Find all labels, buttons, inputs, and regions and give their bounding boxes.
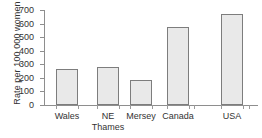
y-tick-mark: 0 <box>40 105 44 106</box>
x-axis-label: NEThames <box>92 111 125 133</box>
x-tick-mark <box>97 105 98 109</box>
y-tick-mark: 200 <box>40 78 44 79</box>
x-axis-label-line: USA <box>223 111 242 121</box>
x-axis-label: Wales <box>55 111 80 122</box>
y-tick-mark: 300 <box>40 64 44 65</box>
x-tick-mark <box>194 105 195 109</box>
x-tick-mark <box>78 105 79 109</box>
x-axis-label: USA <box>223 111 242 122</box>
x-axis-label: Canada <box>162 111 194 122</box>
x-axis-label-line: Canada <box>162 111 194 121</box>
y-tick-mark: 600 <box>40 24 44 25</box>
y-tick-mark: 400 <box>40 51 44 52</box>
y-tick-label: 400 <box>19 46 34 56</box>
x-tick-mark <box>152 105 153 109</box>
bar-chart: Rate per 100 000 women 01002003004005006… <box>0 0 262 138</box>
y-tick-mark: 700 <box>40 10 44 11</box>
bar <box>167 27 189 105</box>
y-tick-label: 600 <box>19 19 34 29</box>
y-tick-mark: 100 <box>40 91 44 92</box>
x-axis-label: Mersey <box>126 111 156 122</box>
x-axis-label-line: NE <box>102 111 115 121</box>
bar <box>56 69 78 105</box>
bar <box>221 14 243 105</box>
y-tick-mark: 500 <box>40 37 44 38</box>
x-tick-mark <box>243 105 244 109</box>
x-axis-line <box>44 105 258 106</box>
x-axis-label-line: Mersey <box>126 111 156 121</box>
x-tick-mark <box>167 105 168 109</box>
x-tick-mark <box>221 105 222 109</box>
x-axis-label-line: Thames <box>92 122 125 133</box>
y-tick-label: 0 <box>29 100 34 110</box>
y-tick-label: 200 <box>19 73 34 83</box>
x-tick-mark <box>249 105 250 109</box>
x-axis-label-line: Wales <box>55 111 80 121</box>
x-tick-mark <box>56 105 57 109</box>
x-tick-mark <box>130 105 131 109</box>
bar <box>97 67 119 105</box>
plot-area: 0100200300400500600700 <box>44 10 258 105</box>
x-tick-mark <box>119 105 120 109</box>
bar <box>130 80 152 105</box>
y-tick-label: 500 <box>19 32 34 42</box>
x-tick-mark <box>189 105 190 109</box>
y-tick-label: 700 <box>19 5 34 15</box>
y-tick-label: 300 <box>19 59 34 69</box>
y-axis-line <box>44 10 45 105</box>
y-tick-label: 100 <box>19 86 34 96</box>
